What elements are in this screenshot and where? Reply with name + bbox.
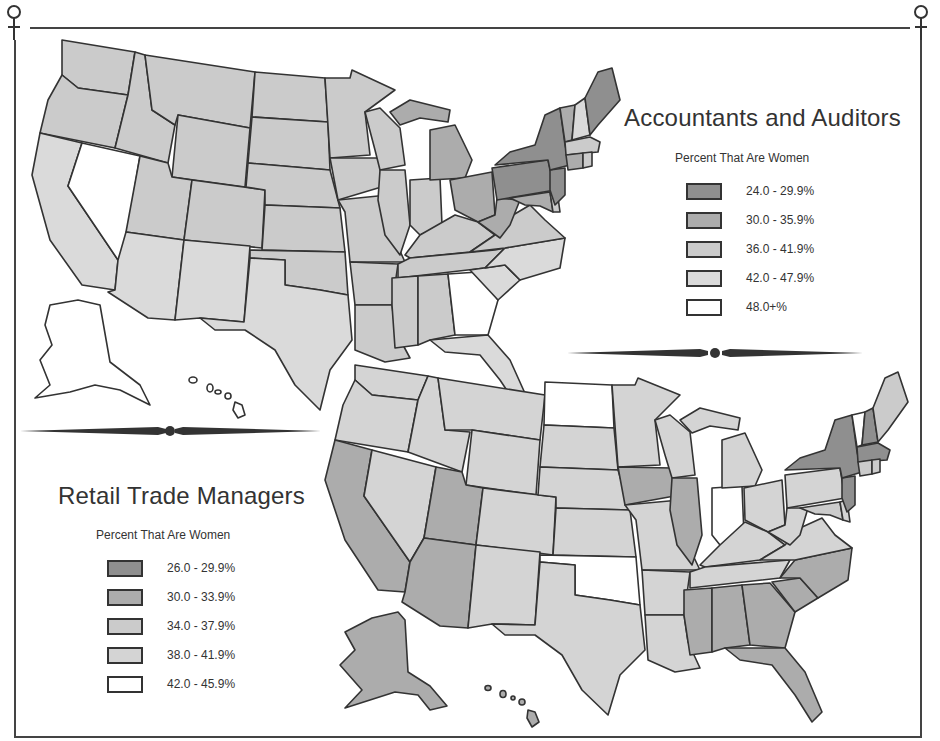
map-title-accountants: Accountants and Auditors [624,104,901,132]
state-nd [252,72,328,122]
state-fl [725,648,822,722]
legend-label: 34.0 - 37.9% [167,619,235,633]
state-nd [544,382,614,428]
map-retail-trade-managers [325,365,908,727]
legend-swatch [686,299,722,316]
legend-swatch [686,270,722,287]
state-nm [175,240,250,322]
state-ct [858,460,872,476]
legend-swatch [686,183,722,200]
state-wy [172,115,250,187]
state-ri [872,459,880,474]
state-oh [450,172,495,222]
map-title-retail: Retail Trade Managers [58,482,305,510]
state-mt [145,55,255,128]
state-ms [392,276,418,348]
ornamental-divider [565,343,865,363]
state-sd [248,117,330,170]
state-mt [438,378,545,440]
legend-item: 30.0 - 35.9% [686,210,814,230]
legend-swatch [107,589,143,606]
state-ny [495,108,570,170]
state-ms [684,588,712,655]
legend-item: 36.0 - 41.9% [686,239,814,259]
legend-label: 26.0 - 29.9% [167,561,235,575]
legend-title-accountants: Percent That Are Women [675,151,809,165]
state-ks [262,205,345,252]
state-ct [566,153,583,170]
legend-label: 24.0 - 29.9% [746,184,814,198]
legend-swatch [686,212,722,229]
legend-title-retail: Percent That Are Women [96,528,230,542]
state-mi-upper [680,408,740,433]
map-accountants-auditors [32,40,620,418]
state-me [873,372,908,442]
legend-swatch [107,676,143,693]
state-mi-upper [390,100,450,125]
legend-item: 30.0 - 33.9% [107,587,235,607]
legend-item: 34.0 - 37.9% [107,616,235,636]
state-ak [35,300,150,405]
legend-label: 42.0 - 47.9% [746,271,814,285]
state-co [476,488,556,555]
state-ak [340,612,447,710]
state-mi [430,125,472,180]
state-ar [350,262,398,305]
legend-label: 38.0 - 41.9% [167,648,235,662]
state-ks [553,508,636,557]
state-co [184,180,265,248]
state-nm [468,545,540,628]
state-hi [189,377,245,418]
state-mi [722,433,762,488]
legend-swatch [107,618,143,635]
legend-label: 42.0 - 45.9% [167,677,235,691]
state-ar [642,570,690,615]
legend-item: 48.0+% [686,297,787,317]
legend-label: 36.0 - 41.9% [746,242,814,256]
state-sd [540,425,618,470]
state-ny [785,415,862,478]
legend-item: 26.0 - 29.9% [107,558,235,578]
legend-item: 24.0 - 29.9% [686,181,814,201]
state-wy [466,430,540,495]
legend-label: 30.0 - 33.9% [167,590,235,604]
ornamental-divider [18,421,323,441]
legend-swatch [686,241,722,258]
legend-swatch [107,560,143,577]
legend-item: 38.0 - 41.9% [107,645,235,665]
legend-swatch [107,647,143,664]
legend-item: 42.0 - 47.9% [686,268,814,288]
state-ri [583,152,592,168]
state-me [585,68,620,135]
state-hi [485,686,539,728]
legend-label: 48.0+% [746,300,787,314]
legend-label: 30.0 - 35.9% [746,213,814,227]
legend-item: 42.0 - 45.9% [107,674,235,694]
